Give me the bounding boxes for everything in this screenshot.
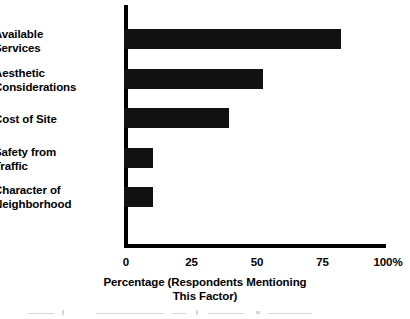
bar-safety-from-traffic [124, 148, 153, 168]
scan-artifact [172, 313, 186, 314]
bar-available-services [124, 29, 341, 49]
category-label-cost-of-site: Cost of Site [0, 113, 114, 127]
x-tick-label-25: 25 [185, 256, 198, 268]
scan-artifact [96, 313, 164, 314]
scan-artifact [62, 310, 64, 315]
scan-artifact [28, 313, 54, 314]
x-tick-label-0: 0 [123, 256, 129, 268]
x-tick-label-100: 100% [373, 256, 402, 268]
category-label-character-of-neighborhood: Character of Neighborhood [0, 184, 114, 211]
x-tick-label-50: 50 [251, 256, 264, 268]
scan-artifact [256, 311, 260, 314]
bar-character-of-neighborhood [124, 187, 153, 207]
x-axis-line [124, 244, 386, 248]
category-label-aesthetic-considerations: Aesthetic Considerations [0, 67, 114, 94]
bar-aesthetic-considerations [124, 69, 263, 89]
scan-artifact [208, 313, 244, 314]
category-label-available-services: Available Services [0, 28, 114, 55]
x-tick-label-75: 75 [316, 256, 329, 268]
scan-artifact [268, 313, 312, 314]
bar-cost-of-site [124, 108, 229, 128]
x-axis-title: Percentage (Respondents Mentioning This … [0, 276, 410, 303]
category-label-safety-from-traffic: Safety from Traffic [0, 146, 114, 173]
bar-chart: Available Services Aesthetic Considerati… [0, 0, 410, 319]
scan-artifact [196, 310, 198, 315]
plot-area: 0 25 50 75 100% [124, 5, 386, 248]
